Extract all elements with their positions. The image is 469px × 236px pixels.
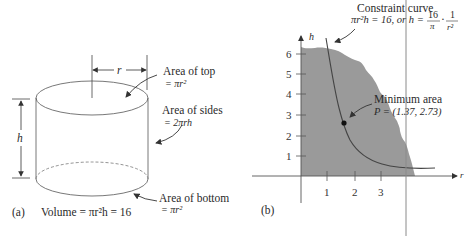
sides-area-formula: = 2πrh <box>164 117 192 128</box>
radius-label: r <box>117 64 122 76</box>
r-tick-1: 1 <box>324 186 330 198</box>
sides-area-label: Area of sides <box>162 104 223 116</box>
panel-b-tag: (b) <box>261 204 275 217</box>
multiply-dot: · <box>441 13 445 25</box>
panel-a-tag: (a) <box>12 206 25 219</box>
r-tick-2: 2 <box>352 186 358 198</box>
height-label: h <box>17 132 23 144</box>
constraint-graph: r h 1 2 3 1 2 3 4 5 6 <box>252 2 464 217</box>
h-axis-label: h <box>309 31 314 42</box>
constraint-pointer <box>335 29 355 42</box>
h-tick-4: 4 <box>286 88 292 100</box>
cylinder-diagram: r h Area of top = πr² Area of sides = 2π… <box>12 55 229 219</box>
cylinder-bottom-front <box>36 179 148 196</box>
frac2-numerator: 1 <box>450 9 455 20</box>
h-tick-6: 6 <box>286 48 292 60</box>
cylinder-bottom-back <box>36 162 148 179</box>
top-area-label: Area of top <box>163 65 216 78</box>
h-tick-5: 5 <box>286 68 292 80</box>
h-tick-2: 2 <box>286 130 292 142</box>
frac1-numerator: 16 <box>428 9 438 20</box>
h-tick-3: 3 <box>286 109 292 121</box>
minimum-point <box>341 120 346 125</box>
minimum-title: Minimum area <box>374 93 442 105</box>
bottom-area-label: Area of bottom <box>159 192 229 204</box>
top-area-formula: = πr² <box>165 78 187 89</box>
h-tick-1: 1 <box>286 150 292 162</box>
bottom-area-pointer <box>134 194 157 201</box>
constraint-formula: πr²h = 16, or h = <box>351 14 424 25</box>
bottom-area-formula: = πr² <box>161 204 183 215</box>
frac1-denominator: π <box>430 21 435 31</box>
minimum-point-label: P = (1.37, 2.73) <box>373 106 442 118</box>
r-tick-3: 3 <box>378 186 384 198</box>
r-axis-label: r <box>460 170 464 180</box>
volume-caption: Volume = πr²h = 16 <box>41 206 132 218</box>
frac2-denominator: r² <box>447 22 454 32</box>
figure-canvas: r h Area of top = πr² Area of sides = 2π… <box>0 0 469 236</box>
constraint-title: Constraint curve <box>357 2 433 14</box>
